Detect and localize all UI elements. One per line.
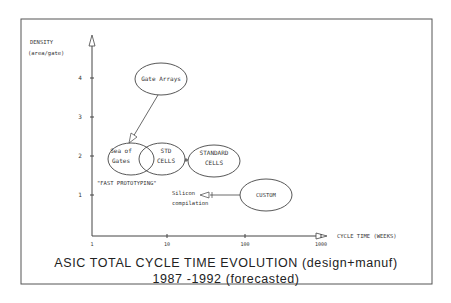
arrowhead-left-icon bbox=[200, 192, 209, 198]
title-line2: 1987 -1992 (forecasted) bbox=[152, 272, 299, 286]
node-gate-arrays-label: Gate Arrays bbox=[141, 75, 181, 83]
node-standard-cells-label-l1: STANDARD bbox=[200, 149, 229, 156]
x-tick-1: 1 bbox=[90, 241, 93, 247]
y-axis-label-line2: (area/gate) bbox=[28, 50, 64, 57]
y-tick-2: 2 bbox=[78, 152, 82, 159]
node-std-cells-label-l2: CELLS bbox=[157, 157, 175, 164]
annotation-fast-prototyping: "FAST PROTOTYPING" bbox=[97, 180, 157, 186]
node-standard-cells-label-l2: CELLS bbox=[205, 159, 223, 166]
x-tick-1000: 1000 bbox=[315, 241, 327, 247]
y-tick-3: 3 bbox=[78, 113, 82, 120]
arrowhead-icon bbox=[129, 133, 137, 143]
y-tick-1: 1 bbox=[78, 191, 82, 198]
title-line1: ASIC TOTAL CYCLE TIME EVOLUTION (design+… bbox=[54, 256, 397, 270]
annotation-silicon-l2: compilation bbox=[172, 200, 208, 207]
node-std-cells-label-l1: STD bbox=[161, 147, 172, 154]
y-tick-4: 4 bbox=[78, 74, 82, 81]
annotation-silicon-l1: Silicon bbox=[172, 190, 195, 196]
node-sea-of-gates-label-l1: Sea of bbox=[110, 147, 132, 154]
node-sea-of-gates-label-l2: Gates bbox=[112, 157, 130, 164]
y-axis-label-line1: DENSITY bbox=[30, 39, 54, 45]
asic-cycle-time-diagram: 4 3 2 1 1 10 100 1000 DENSITY (area/gate… bbox=[0, 0, 451, 303]
y-axis-arrow-icon bbox=[89, 35, 95, 46]
node-custom-label: CUSTOM bbox=[256, 192, 277, 198]
x-tick-10: 10 bbox=[164, 241, 170, 247]
x-tick-100: 100 bbox=[240, 241, 249, 247]
x-axis-label: CYCLE TIME (WEEKS) bbox=[337, 233, 397, 239]
arrow-gate-arrays-to-sea-of-gates bbox=[133, 95, 158, 137]
